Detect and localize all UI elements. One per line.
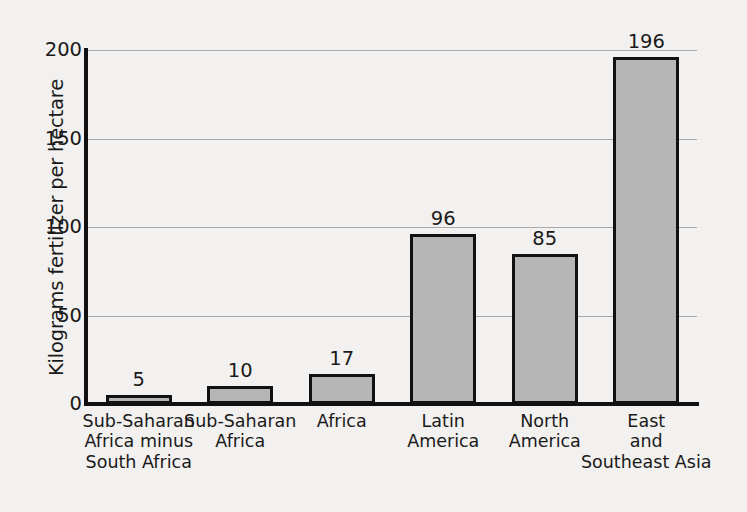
gridline: [88, 316, 697, 317]
x-category-label-line: and: [578, 431, 714, 451]
gridline: [88, 139, 697, 140]
x-category-label-line: South Africa: [71, 452, 207, 472]
plot-area: 510179685196: [88, 50, 697, 404]
y-tick-label: 150: [36, 129, 82, 149]
x-axis-category-labels: Sub-SaharanAfrica minusSouth AfricaSub-S…: [0, 411, 747, 512]
bar-value-label: 196: [606, 32, 686, 52]
x-category-label: EastandSoutheast Asia: [578, 411, 714, 472]
bar-value-label: 5: [99, 370, 179, 390]
x-category-label-line: Africa: [172, 431, 308, 451]
bar[interactable]: [512, 254, 578, 404]
bar[interactable]: [309, 374, 375, 404]
bar-value-label: 17: [302, 349, 382, 369]
x-category-label-line: East: [578, 411, 714, 431]
gridline: [88, 227, 697, 228]
bar[interactable]: [410, 234, 476, 404]
bar-value-label: 96: [403, 209, 483, 229]
bar-value-label: 85: [505, 229, 585, 249]
y-tick-label: 100: [36, 217, 82, 237]
y-tick-label: 50: [36, 306, 82, 326]
bar-value-label: 10: [200, 361, 280, 381]
bar[interactable]: [106, 395, 172, 404]
bar[interactable]: [207, 386, 273, 404]
y-tick-label: 200: [36, 40, 82, 60]
bar-chart: Kilograms fertilizer per hectare 0501001…: [0, 0, 747, 512]
bar[interactable]: [613, 57, 679, 404]
x-category-label-line: Southeast Asia: [578, 452, 714, 472]
